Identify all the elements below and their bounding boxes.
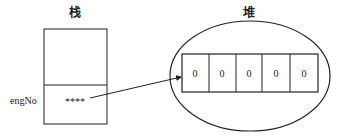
array-cell: 0 (220, 68, 225, 79)
reference-arrow (90, 77, 181, 98)
heap-title: 堆 (243, 5, 255, 20)
memory-diagram: 栈 engNo **** 堆 0 0 0 0 0 (0, 0, 339, 139)
variable-label: engNo (10, 95, 37, 106)
array-object: 0 0 0 0 0 (182, 54, 318, 92)
array-cell: 0 (274, 68, 279, 79)
stack-title: 栈 (69, 5, 81, 20)
variable-value: **** (65, 96, 85, 107)
array-cell: 0 (247, 68, 252, 79)
array-cell: 0 (302, 68, 307, 79)
stack-box (44, 29, 107, 124)
array-cell: 0 (193, 68, 198, 79)
